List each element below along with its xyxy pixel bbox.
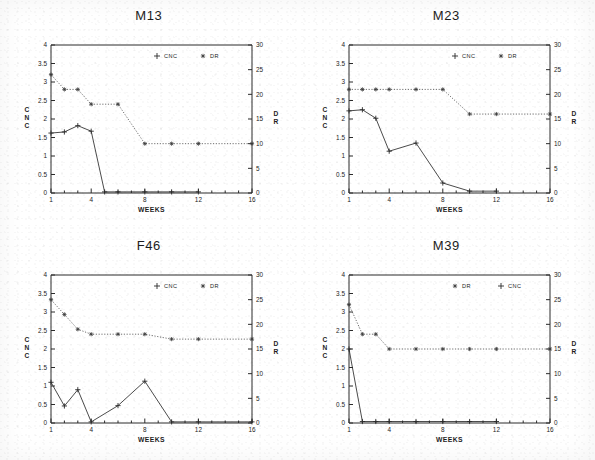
y-left-tick-label: 1.5 [38,364,47,371]
legend-marker-dr [201,284,205,288]
chart-panel: M13 148121600.511.522.533.54051015202530… [0,0,298,230]
y-left-tick-label: 1 [43,382,47,389]
data-point-dr [494,112,498,116]
series-line-cnc [51,126,198,192]
data-point-dr [170,142,174,146]
y-right-axis-label-char: R [274,348,279,355]
data-point-cnc [249,419,254,424]
data-point-dr [440,87,444,91]
chart-panel: M39 148121600.511.522.533.54051015202530… [298,230,595,460]
x-tick-label: 1 [347,426,351,433]
data-point-dr [76,87,80,91]
x-axis-label: WEEKS [138,206,165,213]
data-point-dr [387,347,391,351]
y-right-tick-label: 15 [256,115,264,122]
series-line-dr [349,89,550,114]
data-point-dr [196,142,200,146]
data-point-cnc [48,380,53,385]
data-point-dr [76,327,80,331]
data-point-dr [360,87,364,91]
data-point-dr [373,87,377,91]
data-point-dr [89,102,93,106]
y-right-axis-label-char: D [571,340,576,347]
data-point-cnc [89,419,94,424]
y-right-tick-label: 30 [554,271,562,278]
data-point-cnc [115,189,120,194]
y-right-tick-label: 30 [256,271,264,278]
y-left-tick-label: 1.5 [336,134,345,141]
legend-label-dr: DR [508,53,517,59]
plot-svg: 148121600.511.522.533.54051015202530WEEK… [298,230,595,460]
legend: CNCDR [462,53,517,59]
legend-marker-dr [452,284,456,288]
multi-panel-chart-figure: M13 148121600.511.522.533.54051015202530… [0,0,595,460]
legend-marker-dr [498,54,502,58]
series-line-dr [349,305,550,349]
y-left-tick-label: 0 [43,189,47,196]
legend-label-dr: DR [210,53,219,59]
x-tick-label: 8 [143,196,147,203]
y-left-axis-label-char: C [25,106,30,113]
y-right-tick-label: 30 [256,41,264,48]
data-point-dr [143,142,147,146]
x-tick-label: 4 [387,196,391,203]
y-left-axis-label-char: N [322,344,327,351]
series-line-cnc [349,349,496,422]
y-left-tick-label: 2.5 [38,327,47,334]
data-point-dr [413,347,417,351]
data-point-dr [346,303,350,307]
legend-label-cnc: CNC [164,283,178,289]
legend-marker-cnc [452,53,458,59]
y-left-tick-label: 4 [43,41,47,48]
x-tick-label: 1 [347,196,351,203]
data-point-dr [360,332,364,336]
x-tick-label: 12 [195,426,203,433]
x-tick-label: 1 [49,426,53,433]
data-point-dr [494,347,498,351]
data-point-cnc [142,189,147,194]
y-left-tick-label: 0.5 [336,401,345,408]
y-left-axis-label-char: C [322,352,327,359]
y-right-tick-label: 5 [256,395,260,402]
data-point-dr [143,332,147,336]
x-tick-label: 16 [546,426,554,433]
y-right-tick-label: 0 [256,189,260,196]
y-right-tick-label: 20 [554,91,562,98]
y-left-tick-label: 2.5 [38,97,47,104]
y-left-tick-label: 2 [43,115,47,122]
data-point-cnc [440,180,445,185]
data-point-dr [373,332,377,336]
y-left-axis-label-char: C [322,336,327,343]
y-left-tick-label: 4 [341,271,345,278]
y-left-axis-label-char: N [322,114,327,121]
data-point-dr [62,312,66,316]
y-right-axis-label-char: D [274,110,279,117]
y-left-tick-label: 3.5 [38,60,47,67]
y-right-tick-label: 15 [554,115,562,122]
y-right-tick-label: 0 [554,419,558,426]
plot-svg: 148121600.511.522.533.54051015202530WEEK… [298,0,595,230]
y-left-tick-label: 3 [43,78,47,85]
y-right-axis-label-char: R [274,118,279,125]
y-left-tick-label: 0 [341,419,345,426]
data-point-dr [170,337,174,341]
y-left-axis-label-char: N [25,114,30,121]
y-left-tick-label: 2.5 [336,327,345,334]
y-right-axis-label-char: R [571,348,576,355]
x-tick-label: 16 [546,196,554,203]
plot-area: 148121600.511.522.533.54051015202530WEEK… [0,0,298,230]
y-left-tick-label: 0.5 [38,401,47,408]
x-tick-label: 4 [89,426,93,433]
chart-panel: M23 148121600.511.522.533.54051015202530… [298,0,595,230]
data-point-dr [547,347,551,351]
y-left-axis-label-char: C [25,122,30,129]
y-left-tick-label: 1 [43,152,47,159]
data-point-dr [467,347,471,351]
y-right-tick-label: 25 [554,296,562,303]
y-right-tick-label: 15 [256,345,264,352]
data-point-cnc [346,346,351,351]
data-point-dr [387,87,391,91]
y-right-tick-label: 10 [554,370,562,377]
series-line-dr [51,300,252,339]
data-point-dr [413,87,417,91]
